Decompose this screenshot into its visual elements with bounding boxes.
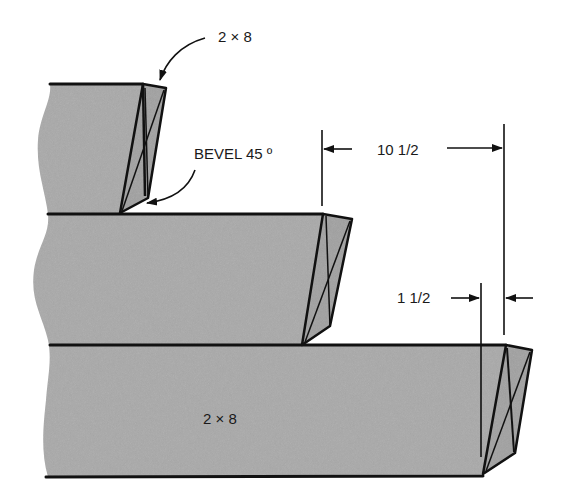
stepped-boards-diagram: 2 × 8 BEVEL 45 º 10 1/2 1 1/2 2 × 8: [0, 0, 564, 497]
dimension-10-1-2-label: 10 1/2: [377, 141, 419, 158]
bevel-label: BEVEL 45 º: [194, 145, 273, 162]
top-board-label: 2 × 8: [218, 28, 252, 45]
bottom-board-bottom-edge: [46, 476, 483, 477]
bevel-callout-leader: [147, 170, 195, 203]
top-callout-leader: [160, 38, 205, 80]
dimension-1-1-2-label: 1 1/2: [397, 289, 430, 306]
bottom-board-label: 2 × 8: [203, 410, 237, 427]
board-stack-body: [33, 84, 532, 477]
